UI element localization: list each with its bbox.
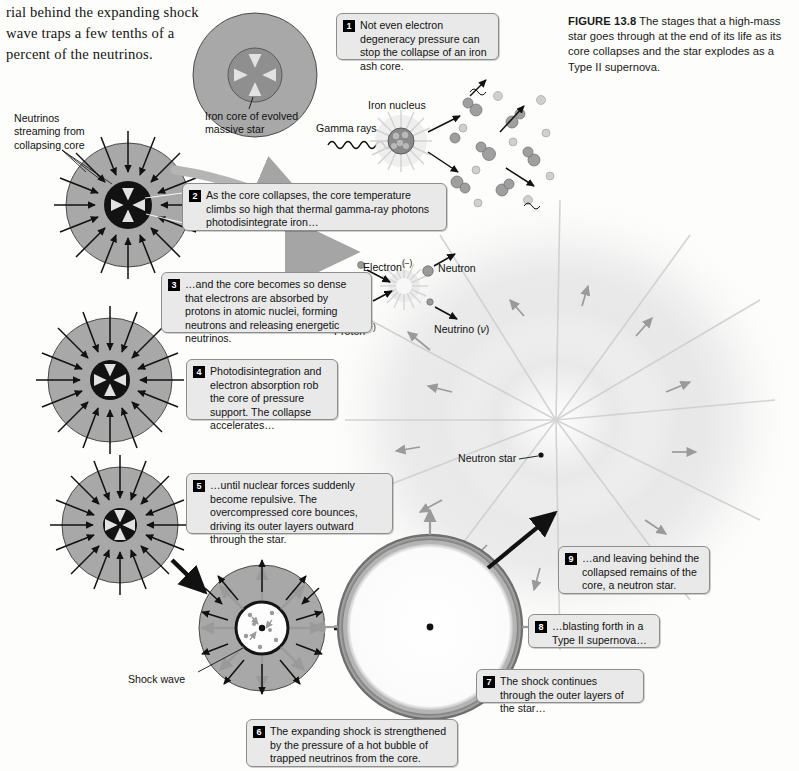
callout-number: 8	[535, 621, 547, 633]
label-neutrino-text: Neutrino (	[434, 323, 481, 335]
label-electron-charge: (−)	[402, 258, 412, 268]
callout-text: Photodisintegration and electron absorpt…	[210, 365, 330, 433]
neutron-star-leader	[519, 456, 538, 459]
callout-text: As the core collapses, the core temperat…	[206, 189, 439, 230]
callout-text: …blasting forth in a Type II supernova…	[552, 620, 652, 647]
label-neutrino: Neutrino (ν)	[434, 310, 489, 337]
stage-diagram-layer	[0, 0, 799, 771]
callout-number: 7	[483, 676, 495, 688]
callout-text: The expanding shock is strengthened by t…	[270, 725, 450, 766]
callout-5[interactable]: 5 …until nuclear forces suddenly become …	[186, 473, 393, 534]
label-neutrinos-streaming: Neutrinos streaming from collapsing core	[14, 112, 85, 152]
callout-text: Not even electron degeneracy pressure ca…	[360, 19, 491, 73]
callout-number: 6	[253, 726, 265, 738]
blast-arrow	[488, 513, 555, 568]
callout-number: 5	[193, 480, 205, 492]
callout-number: 1	[343, 20, 355, 32]
callout-text: …until nuclear forces suddenly become re…	[210, 479, 385, 547]
flow-arrow-d-to-e	[172, 560, 205, 592]
callout-2[interactable]: 2 As the core collapses, the core temper…	[182, 183, 447, 231]
callout-number: 2	[189, 190, 201, 202]
callout-number: 4	[193, 366, 205, 378]
callout-1[interactable]: 1 Not even electron degeneracy pressure …	[336, 13, 499, 60]
callout-text: …and leaving behind the collapsed remain…	[582, 552, 702, 593]
label-electron-text: Electron	[363, 261, 402, 273]
neutron-particle	[423, 266, 433, 276]
neutron-star-dot	[538, 452, 543, 457]
callout-text: …and the core becomes so dense that elec…	[185, 278, 364, 346]
callout-3[interactable]: 3 …and the core becomes so dense that el…	[161, 272, 372, 333]
neutrino-particle	[427, 299, 433, 305]
callout-number: 3	[168, 279, 180, 291]
stage-4-star	[50, 455, 190, 595]
label-iron-nucleus: Iron nucleus	[368, 99, 426, 112]
label-shock-wave: Shock wave	[128, 673, 185, 686]
label-iron-core: Iron core of evolved massive star	[205, 110, 298, 137]
callout-7[interactable]: 7 The shock continues through the outer …	[476, 669, 644, 703]
callout-text: The shock continues through the outer la…	[500, 675, 636, 716]
figure-canvas: rial behind the expanding shock wave tra…	[0, 0, 799, 771]
callout-6[interactable]: 6 The expanding shock is strengthened by…	[246, 719, 458, 767]
callout-number: 9	[565, 553, 577, 565]
label-gamma-rays: Gamma rays	[316, 122, 377, 135]
label-electron: Electron(−)	[363, 244, 412, 274]
callout-9[interactable]: 9 …and leaving behind the collapsed rema…	[558, 546, 710, 594]
callout-4[interactable]: 4 Photodisintegration and electron absor…	[186, 359, 338, 420]
label-neutrino-close: )	[486, 323, 490, 335]
label-neutron: Neutron	[438, 262, 476, 275]
label-neutron-star: Neutron star	[458, 452, 516, 465]
iron-nucleus	[370, 110, 432, 172]
callout-8[interactable]: 8 …blasting forth in a Type II supernova…	[528, 614, 660, 648]
remnant-neutron-star	[427, 624, 434, 631]
neutron-star-core	[259, 625, 265, 631]
